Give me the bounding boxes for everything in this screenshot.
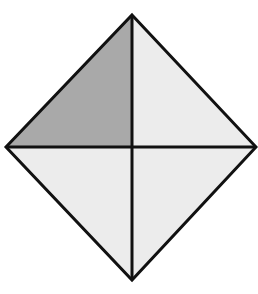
diamond-diagram bbox=[0, 0, 258, 294]
diagram-canvas bbox=[0, 0, 258, 294]
